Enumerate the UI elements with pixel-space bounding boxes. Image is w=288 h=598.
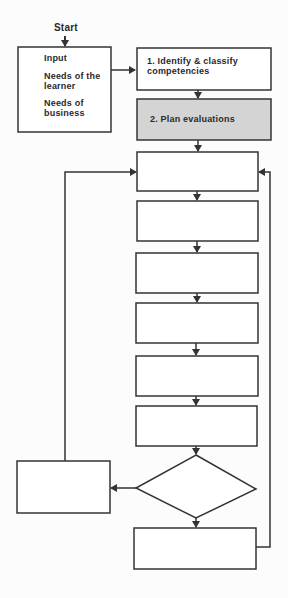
step-5-box: [136, 253, 258, 293]
input-item-learner: Needs of the learner: [44, 71, 104, 91]
decision-diamond: [136, 455, 256, 518]
step-7-box: [136, 356, 258, 396]
input-heading: Input: [44, 53, 67, 63]
step-1-label: 1. Identify & classify competencies: [147, 56, 267, 76]
step-4-box: [137, 201, 258, 241]
step-8-box: [136, 406, 257, 446]
input-item-business: Needs of business: [44, 98, 104, 118]
left-feedback-line: [65, 172, 136, 461]
bottom-box: [134, 528, 256, 569]
step-2-label: 2. Plan evaluations: [150, 114, 235, 124]
left-branch-box: [17, 461, 110, 513]
step-3-box: [137, 152, 258, 191]
start-label: Start: [54, 23, 78, 33]
step-6-box: [136, 303, 258, 343]
